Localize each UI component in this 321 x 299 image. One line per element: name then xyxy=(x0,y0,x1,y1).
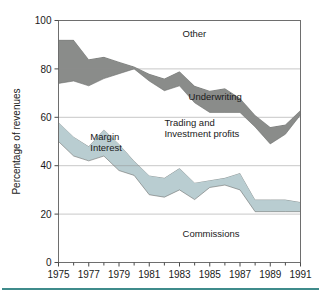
xtick-label-1989: 1989 xyxy=(259,269,282,280)
revenue-composition-chart: 0204060801001975197719791981198319851987… xyxy=(0,0,321,299)
xtick-label-1981: 1981 xyxy=(138,269,161,280)
series-label-trading-and-investment-profits-line1: Trading and xyxy=(164,117,214,128)
series-label-underwriting: Underwriting xyxy=(189,91,242,102)
series-label-trading-and-investment-profits-line2: Investment profits xyxy=(164,128,239,139)
figure-container: 0204060801001975197719791981198319851987… xyxy=(0,0,321,299)
y-axis-title: Percentage of revenues xyxy=(11,88,22,194)
xtick-label-1983: 1983 xyxy=(168,269,191,280)
ytick-label-20: 20 xyxy=(40,209,52,220)
xtick-label-1985: 1985 xyxy=(199,269,222,280)
xtick-label-1991: 1991 xyxy=(289,269,312,280)
series-label-margin-interest-line1: Margin xyxy=(90,131,119,142)
series-label-commissions: Commissions xyxy=(183,228,240,239)
ytick-label-80: 80 xyxy=(40,64,52,75)
ytick-label-100: 100 xyxy=(35,15,52,26)
series-label-other: Other xyxy=(183,28,207,39)
series-label-margin-interest-line2: Interest xyxy=(90,142,122,153)
xtick-label-1975: 1975 xyxy=(47,269,70,280)
bottom-rule-divider xyxy=(2,288,319,290)
ytick-label-0: 0 xyxy=(46,257,52,268)
xtick-label-1987: 1987 xyxy=(229,269,252,280)
xtick-label-1977: 1977 xyxy=(78,269,101,280)
xtick-label-1979: 1979 xyxy=(108,269,131,280)
ytick-label-40: 40 xyxy=(40,160,52,171)
ytick-label-60: 60 xyxy=(40,112,52,123)
